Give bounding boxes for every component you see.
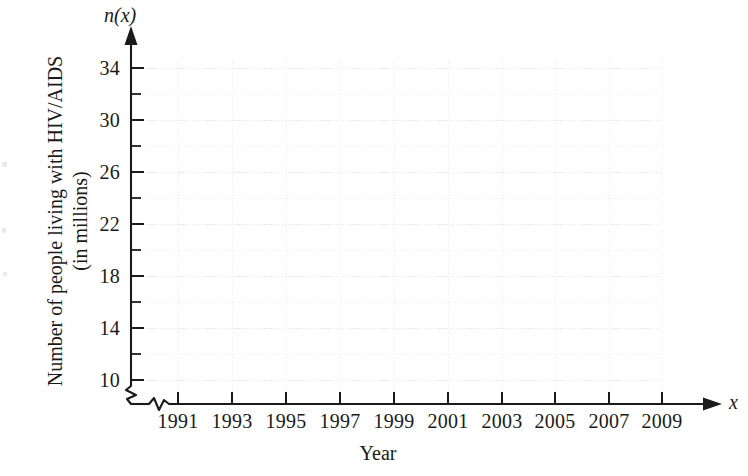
x-tick-label: 2009 <box>630 411 694 431</box>
x-axis-title: Year <box>318 443 438 463</box>
grid-vertical <box>178 60 662 400</box>
grid-group <box>131 60 662 400</box>
y-axis-break <box>126 386 136 404</box>
x-axis-arrowhead <box>703 398 722 411</box>
x-axis <box>131 398 722 411</box>
hiv-aids-coordinate-grid-chart: 34 30 26 22 18 14 10 1991 1993 1995 1997… <box>0 0 748 476</box>
y-axis-arrowhead <box>125 26 138 45</box>
y-axis-title-line1: Number of people living with HIV/AIDS <box>43 21 68 421</box>
x-ticks <box>178 392 662 404</box>
grid-horizontal-major <box>131 68 662 380</box>
x-axis-break <box>149 398 169 410</box>
y-axis-title-line2: (in millions) <box>68 21 93 421</box>
y-major-ticks <box>131 68 144 380</box>
y-axis-title: Number of people living with HIV/AIDS (i… <box>43 21 93 421</box>
x-axis-variable-label: x <box>729 392 738 412</box>
y-axis-variable-label: n(x) <box>104 5 136 25</box>
y-axis <box>125 26 138 404</box>
grid-horizontal-minor <box>131 94 662 354</box>
